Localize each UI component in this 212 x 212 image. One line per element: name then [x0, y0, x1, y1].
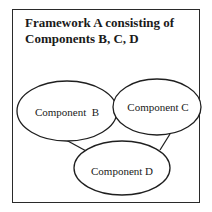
edge-c-to-d: [160, 134, 170, 150]
label-component-b: Component B: [35, 106, 99, 118]
label-component-d: Component D: [91, 165, 153, 177]
label-component-c: Component C: [127, 101, 188, 113]
